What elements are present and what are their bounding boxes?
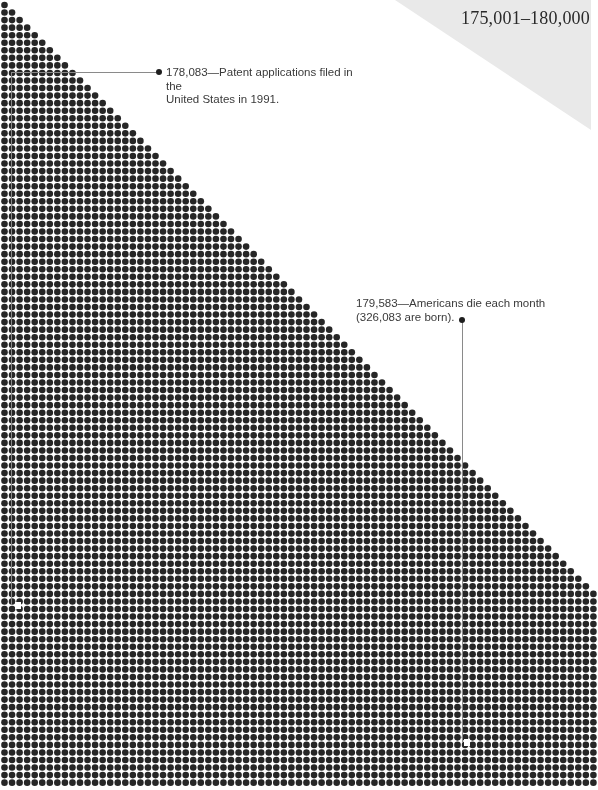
leader-line-patent-vertical [11,72,12,605]
leader-line-patent-horizontal [11,72,156,73]
annotation-deaths-line2: (326,083 are born). [356,311,556,325]
range-title: 175,001–180,000 [461,8,590,29]
dot-matrix-chart [0,0,598,790]
highlight-gap-patent [15,602,21,609]
annotation-patent-line2: United States in 1991. [166,93,356,107]
annotation-patent: 178,083—Patent applications filed in the… [166,66,356,107]
annotation-patent-line1: 178,083—Patent applications filed in the [166,66,356,93]
leader-line-deaths-vertical [462,322,463,742]
highlight-gap-deaths [464,739,470,746]
annotation-deaths-line1: 179,583—Americans die each month [356,297,556,311]
annotation-deaths: 179,583—Americans die each month (326,08… [356,297,556,324]
marker-dot-patent [156,69,162,75]
